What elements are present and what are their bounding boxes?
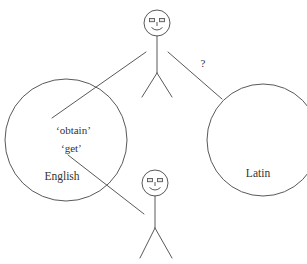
english-term-obtain: ‘obtain’ — [56, 124, 91, 136]
connector-bottom-figure-to-english — [68, 155, 144, 214]
stick-figure-top-right-leg — [157, 73, 172, 97]
english-circle-label: English — [44, 170, 79, 183]
latin-circle-label: Latin — [246, 167, 271, 179]
connector-top-figure-to-latin — [168, 52, 222, 99]
stick-figure-bottom-left-eye-icon — [148, 179, 153, 182]
stick-figure-bottom-left-leg — [140, 228, 155, 258]
english-term-get: ‘get’ — [61, 142, 82, 154]
stick-figure-top-left-leg — [142, 73, 157, 97]
stick-figure-top-smile-icon — [152, 28, 163, 31]
connector-top-figure-to-english — [52, 52, 146, 118]
stick-figure-bottom-right-eye-icon — [158, 179, 163, 182]
stick-figure-bottom — [140, 170, 172, 258]
english-circle — [5, 79, 127, 201]
diagram-canvas: ‘obtain’ ‘get’ English Latin ? — [0, 0, 307, 264]
latin-circle — [207, 84, 307, 196]
stick-figure-bottom-smile-icon — [150, 188, 161, 191]
stick-figure-top-left-eye-icon — [150, 19, 155, 22]
diagram-svg: ‘obtain’ ‘get’ English Latin ? — [0, 0, 307, 264]
stick-figure-bottom-right-leg — [155, 228, 172, 258]
question-mark-annotation: ? — [201, 57, 206, 69]
stick-figure-top-right-eye-icon — [160, 19, 165, 22]
stick-figure-top — [142, 10, 172, 97]
